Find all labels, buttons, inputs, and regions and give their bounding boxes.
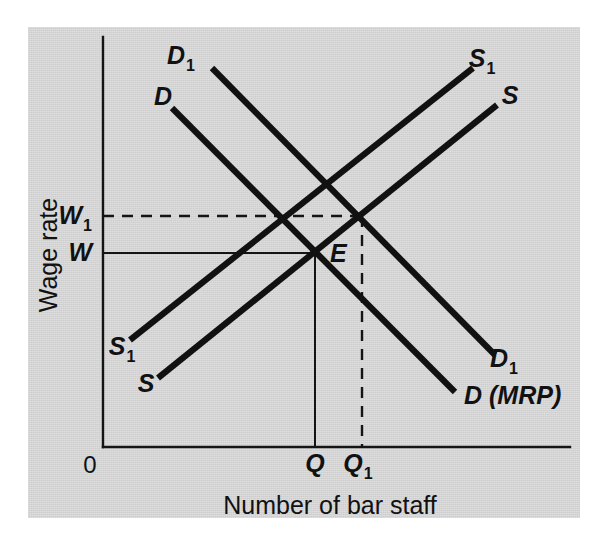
label-supply-shift-top-sub: 1 xyxy=(486,60,495,77)
label-demand-top: D xyxy=(154,82,172,110)
label-wage-w1-sub: 1 xyxy=(83,217,92,234)
label-demand-bottom-mrp: D (MRP) xyxy=(464,381,561,409)
label-supply-shift-bottom-base: S xyxy=(109,332,126,360)
curve-labels-group: D1 D S1 S S1 S D1 D (MRP) xyxy=(109,41,562,409)
label-quantity-q1-base: Q xyxy=(343,449,363,477)
label-equilibrium-e: E xyxy=(330,239,348,267)
label-quantity-q1: Q1 xyxy=(343,449,372,482)
label-supply-top: S xyxy=(502,81,519,109)
label-supply-shift-bottom-sub: 1 xyxy=(126,348,135,365)
label-demand-shift-bottom: D1 xyxy=(490,344,518,377)
label-wage-w: W xyxy=(68,238,94,266)
label-wage-w1: W1 xyxy=(58,201,92,234)
label-wage-w1-base: W xyxy=(58,201,84,229)
label-demand-shift-top-base: D xyxy=(167,41,185,69)
y-axis-title: Wage rate xyxy=(34,198,62,312)
label-demand-shift-top-sub: 1 xyxy=(186,57,195,74)
x-axis-title: Number of bar staff xyxy=(223,491,437,519)
demand-curve-d1 xyxy=(212,68,495,355)
label-origin: 0 xyxy=(83,451,96,478)
figure-page: D1 D S1 S S1 S D1 D (MRP) xyxy=(0,0,602,538)
curves-group xyxy=(130,68,497,392)
label-supply-bottom: S xyxy=(138,369,155,397)
label-quantity-q1-sub: 1 xyxy=(364,465,373,482)
label-demand-shift-bottom-base: D xyxy=(490,344,508,372)
labour-market-chart: D1 D S1 S S1 S D1 D (MRP) xyxy=(0,0,602,538)
label-demand-shift-top: D1 xyxy=(167,41,195,74)
label-supply-shift-top-base: S xyxy=(469,44,486,72)
label-quantity-q: Q xyxy=(305,449,325,477)
supply-curve-s1 xyxy=(130,68,473,340)
demand-curve-d-mrp xyxy=(172,108,455,392)
label-demand-shift-bottom-sub: 1 xyxy=(509,360,518,377)
